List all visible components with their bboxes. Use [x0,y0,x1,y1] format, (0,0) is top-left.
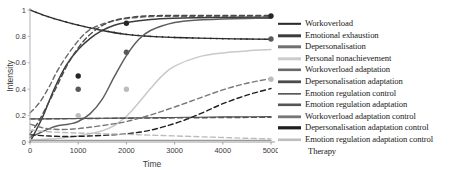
series-tick-marker [47,16,49,18]
legend-marker [285,23,287,25]
legend-item-label: Depersonalisation [305,41,366,53]
series-line [30,10,271,39]
legend-item[interactable]: Emotion regulation control [277,88,458,100]
legend-marker [283,23,285,25]
y-axis-label: Intensity [5,59,15,91]
legend-item[interactable]: Depersonalisation adaptation [277,76,458,88]
legend-swatch [277,64,305,76]
legend-swatch [277,88,305,100]
series-tick-marker [120,33,122,35]
y-tick-label: 0.4 [16,85,26,94]
legend-item[interactable]: Depersonalisation [277,41,458,53]
series-tick-marker [192,37,194,39]
series-tick-marker [35,11,37,13]
series-tick-marker [138,35,140,37]
x-tick-label: 3000 [166,146,183,155]
series-tick-marker [240,38,242,40]
legend-item[interactable]: Therapy [277,146,458,158]
legend-item[interactable]: Emotion regulation adaptation control [277,134,458,146]
series-tick-marker [204,37,206,39]
data-point-marker [124,50,129,55]
series-tick-marker [77,24,79,26]
series-tick-marker [246,38,248,40]
x-tick-label: 0 [28,146,32,155]
series-tick-marker [216,38,218,40]
legend-item[interactable]: Emotional exhaustion [277,30,458,42]
legend-marker [280,23,282,25]
series-tick-marker [41,14,43,16]
legend-item[interactable]: Personal nonachievement [277,53,458,65]
series-line [30,79,271,130]
legend-marker [283,93,285,95]
legend-marker [296,93,298,95]
legend-marker [291,23,293,25]
series-tick-marker [65,21,67,23]
legend-item[interactable]: Emotion regulation adaptation [277,99,458,111]
series-tick-marker [168,36,170,38]
x-tick-label: 4000 [214,146,231,155]
legend-swatch [277,111,305,123]
x-tick-label: 5000 [263,146,278,155]
legend-marker [289,23,291,25]
series-tick-marker [186,37,188,39]
legend-item-label: Workoverload adaptation control [305,111,416,123]
legend-marker [285,93,287,95]
y-tick-label: 0.8 [16,32,26,41]
series-tick-marker [132,34,134,36]
series-tick-marker [126,34,128,36]
series-tick-marker [174,37,176,39]
series-tick-marker [83,26,85,28]
legend-item-label: Workoverload [305,18,353,30]
legend-swatch [277,134,305,146]
legend-marker [278,23,280,25]
data-point-marker [76,87,81,92]
legend-item[interactable]: Workoverload adaptation [277,64,458,76]
legend-item-label: Therapy [305,146,336,158]
legend-swatch [277,122,305,134]
legend-item[interactable]: Workoverload adaptation control [277,111,458,123]
axes-layer [30,8,275,142]
legend-item-label: Emotional exhaustion [305,30,379,42]
legend-item-label: Emotion regulation adaptation control [305,134,433,146]
chart-legend: WorkoverloadEmotional exhaustionDeperson… [277,18,458,168]
legend-marker [294,23,296,25]
y-tick-label: 0.6 [16,58,26,67]
series-tick-marker [162,36,164,38]
legend-marker [287,23,289,25]
legend-marker [289,93,291,95]
series-tick-marker [198,37,200,39]
data-point-marker [268,36,273,41]
data-point-marker [76,73,81,78]
legend-marker [291,93,293,95]
y-tick-label: 0 [22,138,26,147]
legend-swatch [277,53,305,65]
x-tick-label: 1000 [70,146,87,155]
y-tick-label: 1 [22,6,26,15]
legend-item[interactable]: Depersonalisation adaptation control [277,122,458,134]
legend-marker [296,23,298,25]
legend-swatch [277,30,305,42]
series-tick-marker [107,31,109,33]
data-point-marker [268,13,273,18]
series-tick-marker [114,32,116,34]
chart-screenshot: 00.20.40.60.81010002000300040005000 Time… [0,0,458,170]
legend-item[interactable]: Workoverload [277,18,458,30]
legend-item-label: Depersonalisation adaptation control [305,122,429,134]
legend-swatch [277,146,305,158]
legend-item-label: Workoverload adaptation [305,64,390,76]
x-tick-label: 2000 [118,146,135,155]
series-tick-marker [150,36,152,38]
series-layer [29,9,272,142]
legend-swatch [277,76,305,88]
legend-swatch [277,41,305,53]
series-tick-marker [59,19,61,21]
legend-item-label: Emotion regulation control [305,88,396,100]
series-tick-marker [210,38,212,40]
legend-marker [287,93,289,95]
legend-marker [298,93,300,95]
legend-swatch [277,18,305,30]
series-tick-marker [234,38,236,40]
series-tick-marker [89,27,91,29]
series-tick-marker [53,18,55,20]
x-axis-label: Time [143,159,162,169]
